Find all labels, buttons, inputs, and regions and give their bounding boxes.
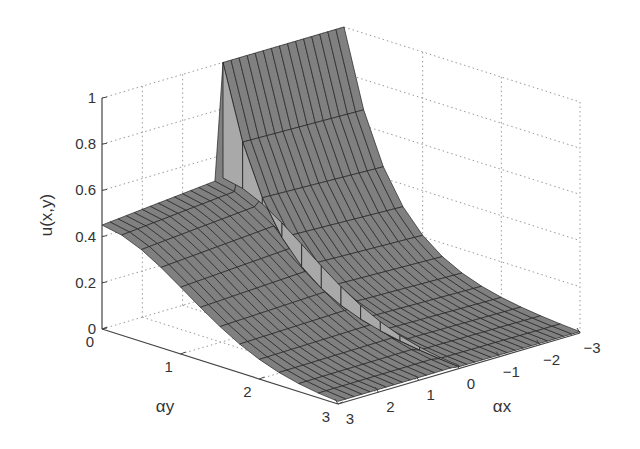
y-tick-label: 1 — [164, 358, 172, 375]
z-tick-label: 0.8 — [75, 135, 96, 152]
x-tick-label: −2 — [543, 351, 560, 368]
z-tick-label: 0.4 — [75, 228, 96, 245]
y-tick-label: 3 — [322, 408, 330, 425]
z-tick-label: 1 — [88, 89, 96, 106]
y-tick-label: 0 — [86, 333, 94, 350]
x-tick-label: −1 — [503, 363, 520, 380]
z-tick-label: 0.2 — [75, 274, 96, 291]
y-tick-label: 2 — [243, 383, 251, 400]
x-tick-label: 2 — [386, 398, 394, 415]
z-axis-label: u(x,y) — [37, 194, 56, 237]
x-tick-label: 3 — [346, 410, 354, 427]
x-tick-label: 0 — [467, 375, 475, 392]
surface — [102, 27, 580, 401]
surface-plot: 00.20.40.60.8101233210−1−2−3 u(x,y) αy α… — [0, 0, 640, 449]
y-axis-label: αy — [156, 397, 175, 416]
x-axis-label: αx — [493, 397, 512, 416]
z-tick-label: 0.6 — [75, 181, 96, 198]
x-tick-label: −3 — [583, 339, 600, 356]
x-tick-label: 1 — [426, 386, 434, 403]
